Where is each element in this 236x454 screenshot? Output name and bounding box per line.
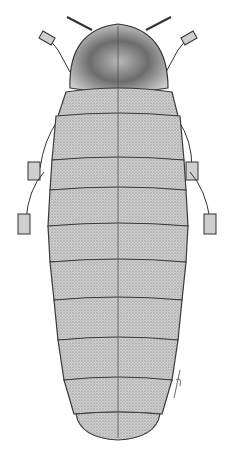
larva-drawing	[0, 0, 236, 454]
illustration	[0, 0, 236, 454]
artist-signature	[174, 370, 181, 398]
head-shield	[70, 24, 168, 92]
